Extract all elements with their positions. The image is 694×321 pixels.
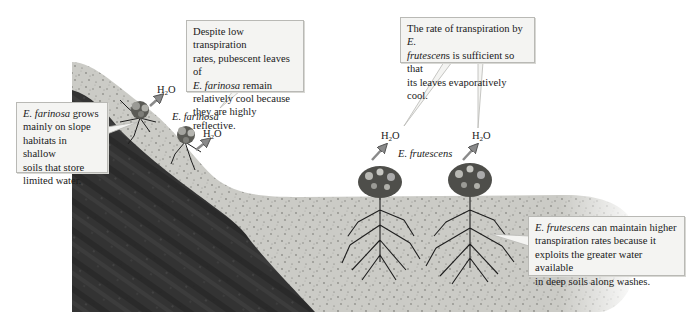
callout-line: frutescens is sufficient so that bbox=[407, 49, 528, 76]
species-name: E. farinosa bbox=[23, 108, 70, 119]
h2o-label-farinosa-upper: H2O bbox=[157, 84, 176, 97]
callout-line: its leaves evaporatively cool. bbox=[407, 76, 528, 103]
callout-line: E. frutescens can maintain higher bbox=[535, 221, 678, 234]
callout-frutescens-rate: The rate of transpiration by E. frutesce… bbox=[400, 17, 535, 63]
callout-farinosa-leaves: Despite low transpiration rates, pubesce… bbox=[186, 20, 304, 92]
callout-frutescens-habitat: E. frutescens can maintain higher transp… bbox=[528, 216, 685, 276]
callout-line: E. farinosa grows bbox=[23, 107, 101, 120]
h2o-label-farinosa-lower: H2O bbox=[203, 128, 222, 141]
species-name: E. frutescens bbox=[535, 222, 590, 233]
callout-line: The rate of transpiration by E. bbox=[407, 22, 528, 49]
label-e-frutescens: E. frutescens bbox=[398, 148, 452, 159]
callout-line: transpiration rates because it bbox=[535, 234, 678, 247]
callout-line: soils that store bbox=[23, 161, 101, 174]
callout-line: rates, pubescent leaves of bbox=[193, 52, 297, 79]
callout-line: in deep soils along washes. bbox=[535, 275, 678, 288]
h2o-label-frutescens-left: H2O bbox=[381, 130, 400, 143]
species-name: E. farinosa bbox=[193, 80, 240, 91]
callout-line: relatively cool because bbox=[193, 92, 297, 105]
callout-line: E. farinosa remain bbox=[193, 79, 297, 92]
callout-farinosa-habitat: E. farinosa grows mainly on slope habita… bbox=[16, 102, 108, 173]
callout-line: mainly on slope bbox=[23, 120, 101, 133]
callout-line: Despite low transpiration bbox=[193, 25, 297, 52]
h2o-label-frutescens-right: H2O bbox=[472, 130, 491, 143]
label-e-farinosa: E. farinosa bbox=[172, 111, 219, 122]
callout-line: limited water. bbox=[23, 174, 101, 187]
callout-line: exploits the greater water available bbox=[535, 248, 678, 275]
callout-line: habitats in shallow bbox=[23, 134, 101, 161]
